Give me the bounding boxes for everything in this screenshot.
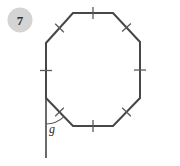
geometry-figure-container: 7 g — [0, 0, 180, 166]
side-tick-marks-group — [40, 7, 146, 132]
regular-octagon-outline — [46, 13, 140, 126]
angle-label-g: g — [49, 122, 55, 136]
problem-number-label: 7 — [17, 13, 24, 28]
problem-number-badge: 7 — [8, 8, 33, 33]
octagon-figure-svg: 7 g — [0, 0, 180, 166]
